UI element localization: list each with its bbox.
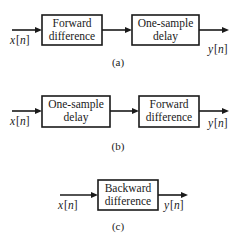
- block-label-line2: difference: [146, 111, 192, 123]
- diagram-a: x[n] Forward difference One-sample delay…: [9, 15, 229, 69]
- caption: (a): [112, 56, 125, 69]
- arrowhead-icon: [125, 27, 132, 33]
- block-label-line1: Forward: [150, 98, 189, 110]
- block-label-line2: difference: [49, 30, 95, 42]
- input-signal-label: x[n]: [57, 199, 78, 211]
- input-signal-label: x[n]: [9, 34, 30, 46]
- output-signal-label: y[n]: [207, 117, 228, 130]
- output-signal-label: y[n]: [207, 43, 228, 56]
- block-label-line2: difference: [105, 195, 151, 207]
- arrowhead-icon: [222, 108, 229, 114]
- block-label-line1: One-sample: [138, 17, 194, 30]
- arrowhead-icon: [181, 192, 188, 198]
- output-signal-label: y[n]: [163, 199, 184, 212]
- block-diagrams: x[n] Forward difference One-sample delay…: [0, 0, 236, 242]
- block-label-line2: delay: [153, 30, 178, 43]
- arrowhead-icon: [132, 108, 139, 114]
- caption: (c): [112, 220, 125, 233]
- block-label-line1: Backward: [105, 182, 152, 194]
- caption: (b): [112, 140, 125, 153]
- block-label-line2: delay: [64, 111, 89, 124]
- arrowhead-icon: [35, 108, 42, 114]
- arrowhead-icon: [35, 27, 42, 33]
- diagram-c: x[n] Backward difference y[n] (c): [57, 180, 188, 233]
- arrowhead-icon: [222, 27, 229, 33]
- input-signal-label: x[n]: [9, 115, 30, 127]
- diagram-b: x[n] One-sample delay Forward difference…: [9, 96, 229, 153]
- block-label-line1: One-sample: [48, 98, 104, 111]
- arrowhead-icon: [91, 192, 98, 198]
- block-label-line1: Forward: [53, 17, 92, 29]
